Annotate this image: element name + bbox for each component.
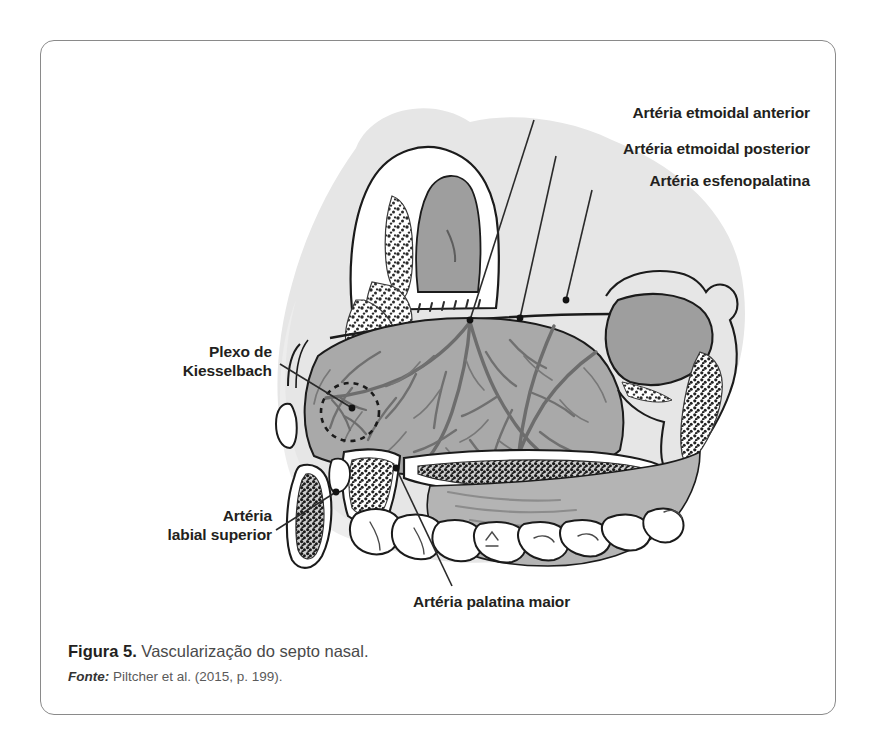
superior-labial-artery [296,474,324,559]
source-label: Fonte: [68,669,109,684]
figure-page: Artéria etmoidal anterior Artéria etmoid… [0,0,879,751]
figure-number: Figura 5. [68,642,137,660]
label-arteria-etmoidal-posterior: Artéria etmoidal posterior [623,139,810,158]
label-plexo-de-kiesselbach: Plexo de Kiesselbach [112,342,272,380]
source-text: Piltcher et al. (2015, p. 199). [109,669,282,684]
figure-caption: Figura 5. Vascularização do septo nasal. [68,640,768,662]
figure-source: Fonte: Piltcher et al. (2015, p. 199). [68,668,768,686]
label-arteria-esfenopalatina: Artéria esfenopalatina [649,171,810,190]
label-arteria-palatina-maior: Artéria palatina maior [413,592,570,611]
figure-caption-text: Vascularização do septo nasal. [137,642,369,660]
label-arteria-etmoidal-anterior: Artéria etmoidal anterior [632,103,810,122]
label-arteria-labial-superior: Artéria labial superior [96,506,272,544]
figure-caption-block: Figura 5. Vascularização do septo nasal.… [68,640,768,686]
